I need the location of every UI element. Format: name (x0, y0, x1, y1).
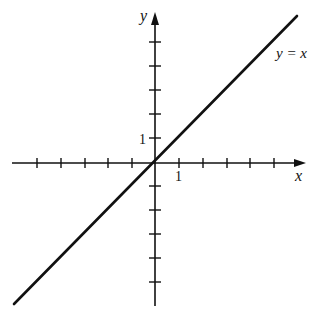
x-axis-label: x (294, 167, 302, 184)
x-axis-arrow-icon (294, 159, 306, 167)
x-unit-label: 1 (175, 169, 182, 184)
line-label: y = x (274, 45, 307, 61)
coordinate-plane: y x 1 1 y = x (0, 0, 314, 311)
y-axis-arrow-icon (151, 12, 159, 25)
y-axis-label: y (138, 7, 148, 25)
y-unit-label: 1 (139, 132, 146, 147)
x-axis (12, 158, 306, 168)
